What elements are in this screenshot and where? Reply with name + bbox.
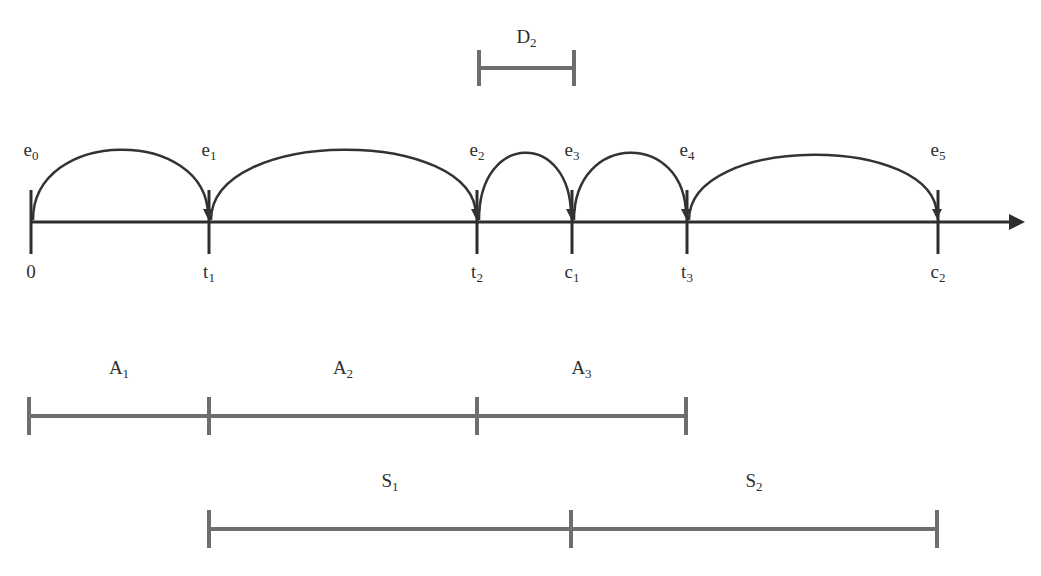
event-label: e0 <box>24 140 39 162</box>
tick-label: c2 <box>931 262 946 284</box>
event-arcs <box>33 150 937 220</box>
tick-label: t2 <box>471 262 483 284</box>
interval-label-subscript: 2 <box>347 366 354 381</box>
diagram-canvas <box>0 0 1041 576</box>
interval-label: A1 <box>109 358 129 380</box>
axis-arrow-icon <box>1009 214 1025 230</box>
interval-label-subscript: 1 <box>392 479 399 494</box>
tick-label: 0 <box>26 262 36 281</box>
event-label-subscript: 2 <box>478 148 485 163</box>
time-axis <box>31 190 1025 254</box>
interval-label-base: S <box>745 470 756 491</box>
event-arc-arrow <box>689 155 937 220</box>
interval-label-subscript: 2 <box>756 479 763 494</box>
event-arc-arrow <box>33 150 208 220</box>
tick-label: t1 <box>203 262 215 284</box>
event-label-subscript: 5 <box>939 148 946 163</box>
interval-label: A3 <box>571 358 591 380</box>
event-label-subscript: 1 <box>210 148 217 163</box>
duration-label: D2 <box>516 27 536 49</box>
interval-label: S1 <box>381 471 398 493</box>
interval-label-base: S <box>381 470 392 491</box>
interval-bars <box>29 397 937 548</box>
tick-label: c1 <box>565 262 580 284</box>
event-arc-arrow <box>479 153 571 220</box>
tick-label-subscript: 3 <box>686 270 693 285</box>
event-label: e2 <box>470 140 485 162</box>
event-label: e4 <box>680 140 695 162</box>
interval-label-base: A <box>333 357 347 378</box>
duration-label-subscript: 2 <box>530 35 537 50</box>
interval-label-subscript: 1 <box>123 366 130 381</box>
interval-label: A2 <box>333 358 353 380</box>
event-label-subscript: 3 <box>573 148 580 163</box>
timeline-diagram: 0t1t2c1t3c2e0e1e2e3e4e5D2A1A2A3S1S2 <box>0 0 1041 576</box>
interval-label-base: A <box>571 357 585 378</box>
tick-label-subscript: 1 <box>208 270 215 285</box>
event-label: e1 <box>202 140 217 162</box>
tick-label-subscript: 2 <box>476 270 483 285</box>
interval-label-base: A <box>109 357 123 378</box>
duration-marker-d2 <box>479 50 574 86</box>
tick-label-subscript: 2 <box>939 270 946 285</box>
duration-label-base: D <box>516 26 530 47</box>
event-label: e5 <box>931 140 946 162</box>
tick-label: t3 <box>681 262 693 284</box>
event-arc-arrow <box>574 153 686 220</box>
interval-label: S2 <box>745 471 762 493</box>
tick-label-base: 0 <box>26 261 36 282</box>
event-label: e3 <box>565 140 580 162</box>
event-label-subscript: 4 <box>688 148 695 163</box>
event-label-subscript: 0 <box>32 148 39 163</box>
event-arc-arrow <box>211 150 476 220</box>
interval-label-subscript: 3 <box>585 366 592 381</box>
tick-label-subscript: 1 <box>573 270 580 285</box>
